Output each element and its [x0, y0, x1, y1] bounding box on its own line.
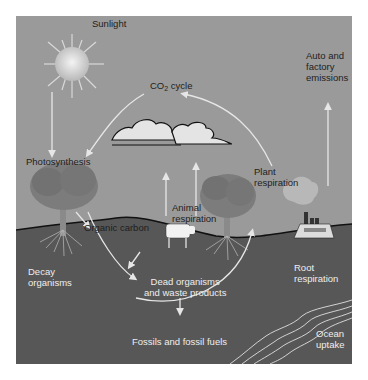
label-auto-emissions: Auto and factory emissions — [306, 50, 348, 83]
label-photosynthesis: Photosynthesis — [26, 156, 90, 167]
label-co2-cycle: CO2 cycle — [150, 80, 192, 94]
diagram-artwork — [16, 16, 352, 364]
label-animal-respiration: Animal respiration — [172, 202, 216, 224]
co2-prefix: CO — [150, 80, 164, 91]
co2-suffix: cycle — [168, 80, 192, 91]
label-root-respiration: Root respiration — [294, 262, 338, 284]
carbon-cycle-diagram: Sunlight CO2 cycle Auto and factory emis… — [16, 16, 352, 364]
label-organic-carbon: Organic carbon — [84, 222, 149, 233]
label-plant-respiration: Plant respiration — [254, 166, 298, 188]
cloud-icon — [112, 120, 232, 144]
label-decay-organisms: Decay organisms — [28, 266, 72, 288]
sun-icon — [44, 34, 104, 98]
label-dead-organisms: Dead organisms and waste products — [144, 276, 226, 298]
label-fossils: Fossils and fossil fuels — [132, 336, 227, 347]
label-sunlight: Sunlight — [92, 18, 126, 29]
label-ocean-uptake: Ocean uptake — [316, 328, 345, 350]
